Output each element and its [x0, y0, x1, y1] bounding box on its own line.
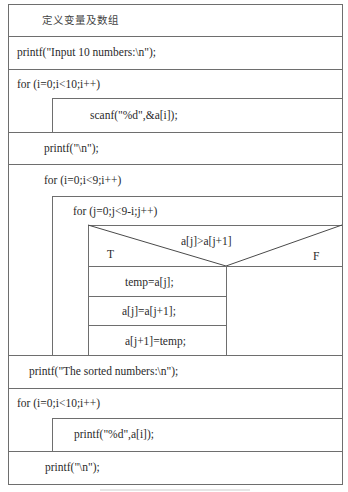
branch-split	[226, 266, 227, 355]
swap-1-text: temp=a[j];	[125, 275, 174, 289]
loop3-body-edge	[52, 418, 53, 451]
caption-remnant	[100, 489, 250, 491]
print-newline-2-text: printf("\n");	[45, 460, 100, 474]
divider	[8, 388, 343, 389]
print-sorted-prompt-text: printf("The sorted numbers:\n");	[29, 364, 178, 378]
true-label: T	[107, 247, 114, 261]
divider	[88, 325, 226, 326]
divider	[52, 418, 343, 419]
swap-2-text: a[j]=a[j+1];	[122, 304, 176, 318]
loop3-body-text: printf("%d",a[i]);	[74, 427, 154, 441]
divider	[8, 355, 343, 356]
loop3-header-text: for (i=0;i<10;i++)	[17, 396, 100, 410]
divider	[88, 296, 226, 297]
condition-text: a[j]>a[j+1]	[181, 234, 232, 248]
false-label: F	[313, 249, 319, 263]
divider	[8, 451, 343, 452]
swap-3-text: a[j+1]=temp;	[125, 334, 186, 348]
ns-diagram: 定义变量及数组 printf("Input 10 numbers:\n"); f…	[0, 0, 348, 492]
divider	[88, 266, 343, 267]
